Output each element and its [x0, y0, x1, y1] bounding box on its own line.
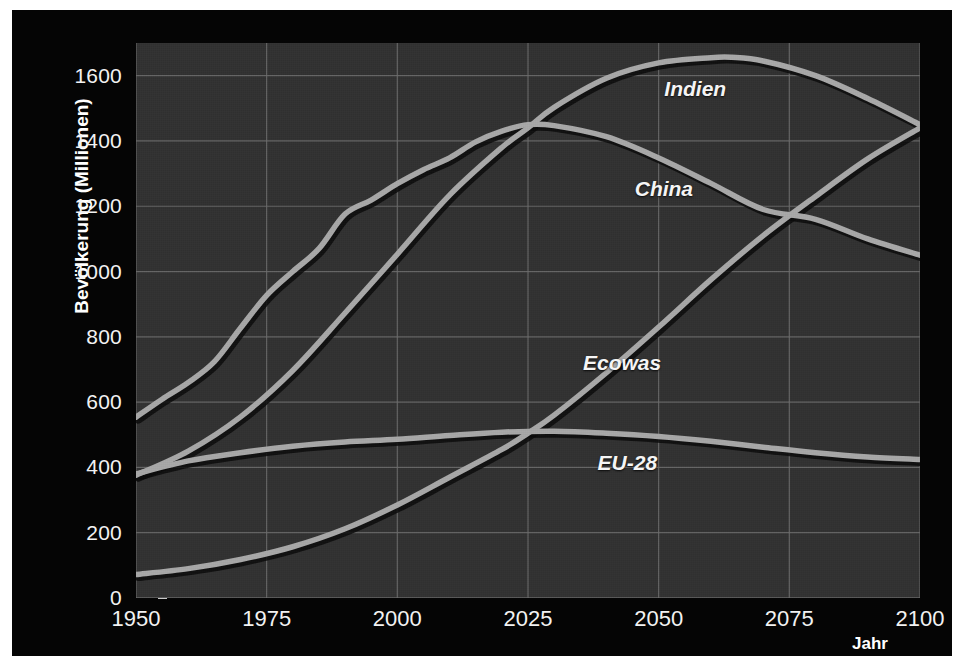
x-tick-label: 2075 — [765, 606, 814, 632]
x-tick-label: 2025 — [504, 606, 553, 632]
series-line-shadow — [139, 127, 921, 420]
x-tick-label: 2000 — [373, 606, 422, 632]
x-axis-title: Jahr — [852, 634, 888, 654]
y-tick-label: 1000 — [74, 260, 122, 284]
y-tick-label: 200 — [86, 521, 122, 545]
chart-root: Bevölkerung (Millionen) 0200400600800100… — [0, 0, 964, 670]
x-tick-label: 1950 — [112, 606, 161, 632]
y-tick-label: 400 — [86, 455, 122, 479]
series-label-indien: Indien — [664, 77, 726, 101]
y-tick-label: 600 — [86, 390, 122, 414]
y-axis-ticks: 02004006008001000120014001600 — [42, 43, 122, 598]
y-tick-label: 1200 — [74, 194, 122, 218]
series-label-china: China — [635, 177, 693, 201]
plot-canvas — [136, 43, 920, 598]
x-tick-label: 1975 — [242, 606, 291, 632]
series-line-shadow — [139, 131, 921, 578]
plot-area: IndienChinaEcowasEU-28 — [136, 43, 920, 598]
y-tick-label: 800 — [86, 325, 122, 349]
y-tick-label: 1400 — [74, 129, 122, 153]
series-label-ecowas: Ecowas — [583, 351, 661, 375]
series-label-eu-28: EU-28 — [598, 451, 658, 475]
figure-panel: Bevölkerung (Millionen) 0200400600800100… — [12, 10, 952, 656]
x-tick-label: 2050 — [634, 606, 683, 632]
y-tick-label: 1600 — [74, 64, 122, 88]
x-tick-label: 2100 — [896, 606, 945, 632]
